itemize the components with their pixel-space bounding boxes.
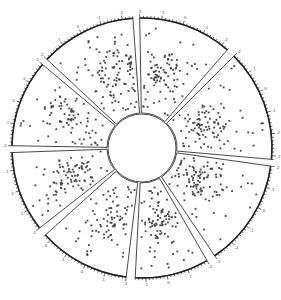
data-point xyxy=(125,223,127,225)
data-point xyxy=(102,194,104,196)
data-point xyxy=(194,195,196,197)
data-point xyxy=(192,179,194,181)
data-point xyxy=(102,96,104,98)
data-point xyxy=(51,105,53,107)
data-point xyxy=(59,87,61,89)
data-point xyxy=(168,218,170,220)
data-point xyxy=(122,107,124,109)
data-point xyxy=(216,119,218,121)
data-point xyxy=(73,115,75,117)
data-point xyxy=(211,168,213,170)
data-point xyxy=(95,119,97,121)
data-point xyxy=(200,194,202,196)
data-point xyxy=(103,218,105,220)
data-point xyxy=(75,179,77,181)
tick-mark xyxy=(222,42,224,45)
data-point xyxy=(79,180,81,182)
data-point xyxy=(88,132,90,134)
data-point xyxy=(116,49,118,51)
data-point xyxy=(55,190,57,192)
data-point xyxy=(185,125,187,127)
tick-label: .2 xyxy=(43,243,47,248)
data-point xyxy=(150,190,152,192)
data-point xyxy=(156,64,158,66)
data-point xyxy=(79,230,81,232)
data-point xyxy=(92,155,94,157)
data-point xyxy=(116,205,118,207)
data-point xyxy=(67,119,69,121)
data-point xyxy=(116,80,118,82)
data-point xyxy=(76,72,78,74)
data-point xyxy=(68,114,70,116)
data-point xyxy=(99,224,101,226)
data-point xyxy=(59,120,61,122)
data-point xyxy=(110,211,112,213)
data-point xyxy=(91,144,93,146)
data-point xyxy=(116,77,118,79)
data-point xyxy=(213,121,215,123)
tick-label: .2 xyxy=(123,281,127,286)
data-point xyxy=(231,190,233,192)
data-point xyxy=(151,192,153,194)
data-point xyxy=(179,114,181,116)
tick-label: .2 xyxy=(237,49,241,54)
tick-mark xyxy=(39,62,42,65)
data-point xyxy=(143,201,145,203)
tick-label: .1 xyxy=(97,15,101,20)
data-point xyxy=(98,74,100,76)
data-point xyxy=(167,75,169,77)
data-point xyxy=(220,147,222,149)
data-point xyxy=(148,190,150,192)
data-point xyxy=(81,168,83,170)
data-point xyxy=(100,78,102,80)
data-point xyxy=(81,165,83,167)
data-point xyxy=(226,186,228,188)
data-point xyxy=(112,52,114,54)
data-point xyxy=(67,165,69,167)
tick-label: .2 xyxy=(35,57,39,62)
data-point xyxy=(112,226,114,228)
data-point xyxy=(98,231,100,233)
data-point xyxy=(128,188,130,190)
data-point xyxy=(125,109,127,111)
data-point xyxy=(191,175,193,177)
data-point xyxy=(189,165,191,167)
tick-label: .2 xyxy=(138,9,142,14)
data-point xyxy=(201,124,203,126)
data-point xyxy=(86,250,88,252)
data-point xyxy=(55,194,57,196)
data-point xyxy=(76,123,78,125)
tick-label: 0 xyxy=(264,86,267,91)
data-point xyxy=(192,191,194,193)
data-point xyxy=(101,67,103,69)
radial-scatter-chart: .2.10.1.2.2.10.1.2.2.10.1.2.2.2.10.1.2.2… xyxy=(0,0,281,300)
data-point xyxy=(50,112,52,114)
tick-label: .1 xyxy=(250,228,254,233)
data-point xyxy=(223,86,225,88)
data-point xyxy=(174,101,176,103)
data-point xyxy=(71,110,73,112)
tick-label: .2 xyxy=(277,154,281,159)
data-point xyxy=(60,62,62,64)
data-point xyxy=(100,139,102,141)
data-point xyxy=(107,236,109,238)
data-point xyxy=(74,117,76,119)
data-point xyxy=(71,175,73,177)
data-point xyxy=(196,216,198,218)
data-point xyxy=(70,157,72,159)
data-point xyxy=(117,215,119,217)
data-point xyxy=(193,157,195,159)
data-point xyxy=(60,182,62,184)
data-point xyxy=(176,86,178,88)
data-point xyxy=(97,72,99,74)
data-point xyxy=(179,70,181,72)
data-point xyxy=(111,222,113,224)
data-point xyxy=(105,209,107,211)
data-point xyxy=(188,131,190,133)
data-point xyxy=(153,57,155,59)
tick-label: .2 xyxy=(40,52,44,57)
data-point xyxy=(178,167,180,169)
data-point xyxy=(109,195,111,197)
data-point xyxy=(149,221,151,223)
data-point xyxy=(39,199,41,201)
